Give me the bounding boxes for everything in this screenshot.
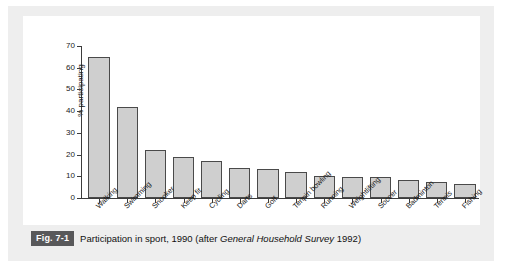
x-tick-mark <box>409 199 410 203</box>
bar-series <box>82 46 479 198</box>
x-tick-mark <box>127 199 128 203</box>
y-tick-label: 30 <box>66 127 75 138</box>
y-tick-mark <box>77 133 81 134</box>
y-tick-mark <box>77 155 81 156</box>
x-tick-mark <box>296 199 297 203</box>
y-tick-label: 70 <box>66 40 75 51</box>
x-tick-mark <box>465 199 466 203</box>
x-tick-mark <box>437 199 438 203</box>
x-tick-mark <box>240 199 241 203</box>
chart-panel: % participating 010203040506070 WalkingS… <box>23 16 480 225</box>
x-tick-mark <box>212 199 213 203</box>
caption-part-before: Participation in sport, 1990 (after <box>80 233 220 244</box>
y-tick-label: 60 <box>66 62 75 73</box>
x-tick-mark <box>352 199 353 203</box>
y-tick-label: 50 <box>66 83 75 94</box>
y-tick-mark <box>77 176 81 177</box>
y-tick-mark <box>77 46 81 47</box>
y-tick-label: 40 <box>66 105 75 116</box>
figure-caption: Fig. 7-1 Participation in sport, 1990 (a… <box>31 231 361 246</box>
x-tick-mark <box>99 199 100 203</box>
bar <box>117 107 138 198</box>
bar <box>257 169 278 198</box>
y-tick-mark <box>77 68 81 69</box>
x-tick-mark <box>268 199 269 203</box>
x-tick-mark <box>324 199 325 203</box>
caption-part-after: 1992) <box>334 233 361 244</box>
x-tick-mark <box>184 199 185 203</box>
figure-container: % participating 010203040506070 WalkingS… <box>0 0 513 273</box>
y-tick-mark <box>77 111 81 112</box>
x-tick-mark <box>155 199 156 203</box>
y-tick-label: 0 <box>71 192 75 203</box>
bar <box>88 57 109 198</box>
y-tick-label: 20 <box>66 149 75 160</box>
caption-source-title: General Household Survey <box>220 233 334 244</box>
figure-number-badge: Fig. 7-1 <box>31 231 74 246</box>
y-tick-label: 10 <box>66 170 75 181</box>
figure-caption-text: Participation in sport, 1990 (after Gene… <box>80 233 361 245</box>
y-tick-mark <box>77 89 81 90</box>
y-tick-mark <box>77 198 81 199</box>
x-tick-mark <box>381 199 382 203</box>
plot-area: % participating 010203040506070 WalkingS… <box>81 46 479 198</box>
